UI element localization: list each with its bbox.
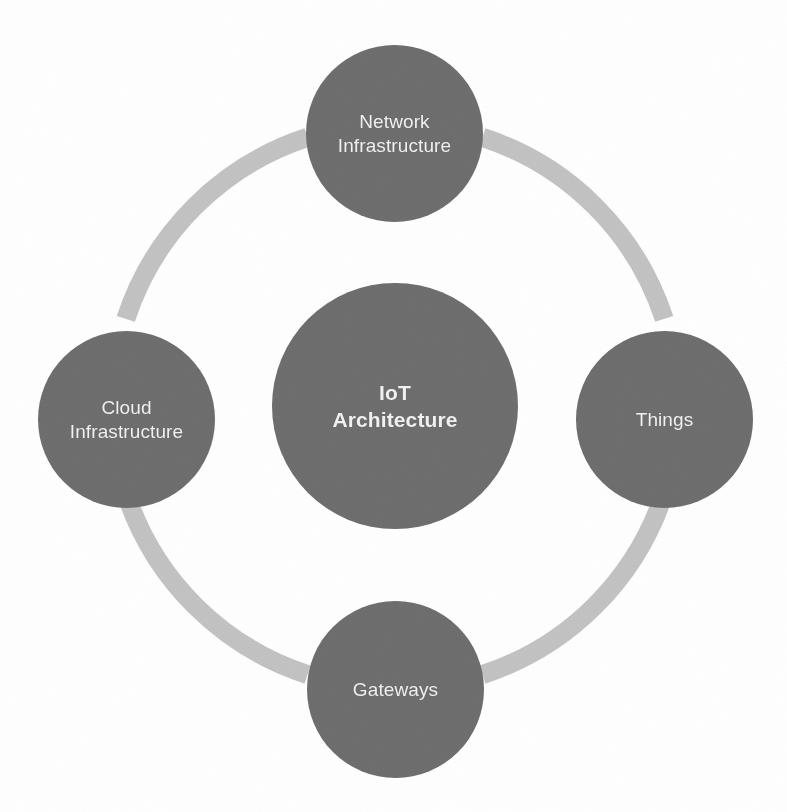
diagram-canvas: IoT Architecture Network Infrastructure … <box>0 0 787 812</box>
ring-arc-bottom-left <box>126 493 308 674</box>
node-gateways-label: Gateways <box>347 678 444 702</box>
node-things[interactable]: Things <box>576 331 753 508</box>
node-cloud-infrastructure[interactable]: Cloud Infrastructure <box>38 331 215 508</box>
node-gateways[interactable]: Gateways <box>307 601 484 778</box>
figure-caption <box>52 798 732 812</box>
node-iot-architecture[interactable]: IoT Architecture <box>272 283 518 529</box>
node-network-infrastructure[interactable]: Network Infrastructure <box>306 45 483 222</box>
ring-arc-top-right <box>483 137 665 319</box>
node-network-infrastructure-label: Network Infrastructure <box>332 110 457 157</box>
ring-arc-bottom-right <box>483 493 665 674</box>
node-cloud-infrastructure-label: Cloud Infrastructure <box>64 396 189 443</box>
node-things-label: Things <box>630 408 700 432</box>
node-iot-architecture-label: IoT Architecture <box>327 379 464 434</box>
ring-arc-top-left <box>126 137 308 319</box>
